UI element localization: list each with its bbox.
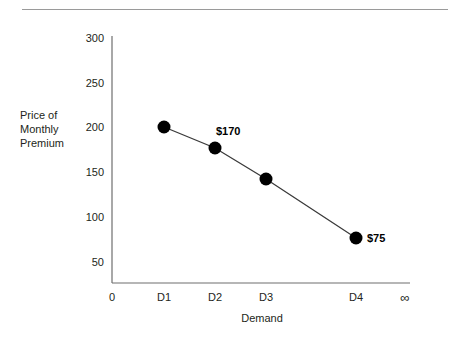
x-tick-label-d4: D4 [339, 291, 373, 304]
y-axis-title-line-2: Monthly [20, 122, 84, 136]
y-tick-label-250: 250 [70, 77, 104, 90]
annotation-170: $170 [216, 125, 240, 138]
chart-figure: 300 250 200 150 100 50 Price of Monthly … [0, 0, 457, 341]
x-tick-label-d3: D3 [249, 291, 283, 304]
data-point-d1[interactable] [158, 121, 171, 134]
x-tick-label-d2: D2 [198, 291, 232, 304]
annotation-75: $75 [367, 232, 385, 245]
demand-curve [164, 127, 356, 238]
data-point-d2[interactable] [209, 142, 222, 155]
y-tick-label-150: 150 [70, 166, 104, 179]
x-tick-label-0: 0 [95, 291, 129, 304]
y-tick-label-100: 100 [70, 211, 104, 224]
y-tick-label-300: 300 [70, 32, 104, 45]
x-tick-label-d1: D1 [147, 291, 181, 304]
data-point-d3[interactable] [260, 173, 273, 186]
y-axis-title: Price of Monthly Premium [20, 108, 84, 150]
y-axis-title-line-1: Price of [20, 108, 84, 122]
y-axis-title-line-3: Premium [20, 136, 84, 150]
x-axis-title: Demand [232, 312, 292, 325]
x-tick-label-infinity: ∞ [388, 291, 422, 304]
y-tick-label-50: 50 [70, 256, 104, 269]
plot-area [0, 0, 457, 341]
data-point-d4[interactable] [350, 232, 363, 245]
